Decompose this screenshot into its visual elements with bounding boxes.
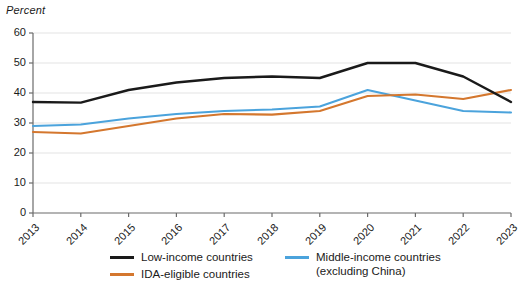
legend-label-low-income: Low-income countries — [141, 250, 253, 264]
chart-legend: Low-income countries IDA-eligible countr… — [0, 248, 523, 284]
legend-label-ida-eligible: IDA-eligible countries — [141, 267, 250, 281]
legend-swatch-low-income — [110, 256, 134, 259]
legend-item-middle-income: Middle-income countries(excluding China) — [285, 250, 441, 278]
chart-root: Percent 6050403020100 201320142015201620… — [0, 0, 523, 284]
y-tick-60: 60 — [0, 26, 26, 38]
y-tick-0: 0 — [0, 206, 26, 218]
legend-item-ida-eligible: IDA-eligible countries — [110, 267, 250, 281]
legend-item-low-income: Low-income countries — [110, 250, 253, 264]
legend-label-middle-income-line1: Middle-income countries — [316, 251, 441, 263]
y-tick-40: 40 — [0, 86, 26, 98]
legend-label-middle-income: Middle-income countries(excluding China) — [316, 250, 441, 278]
legend-swatch-ida-eligible — [110, 273, 134, 276]
y-tick-30: 30 — [0, 116, 26, 128]
y-tick-10: 10 — [0, 176, 26, 188]
y-tick-20: 20 — [0, 146, 26, 158]
legend-label-middle-income-line2: (excluding China) — [316, 265, 406, 277]
legend-swatch-middle-income — [285, 256, 309, 259]
y-tick-50: 50 — [0, 56, 26, 68]
